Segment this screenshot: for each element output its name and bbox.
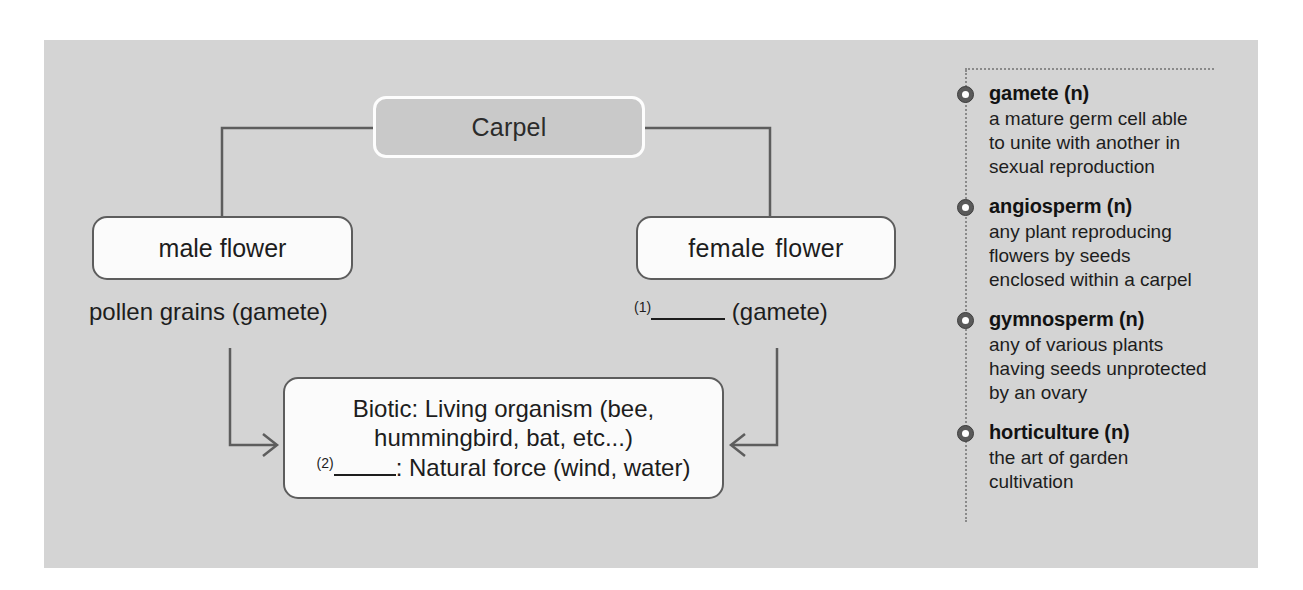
glossary-entry: horticulture (n) the art of garden culti… xyxy=(989,421,1239,494)
node-female-flower-label-part1: female xyxy=(688,234,765,262)
glossary-term: angiosperm (n) xyxy=(989,195,1239,217)
caption-female-gamete-suffix: (gamete) xyxy=(732,298,828,325)
connector-carpel-to-male xyxy=(222,128,373,216)
glossary-term: horticulture (n) xyxy=(989,421,1239,443)
node-male-flower[interactable]: male flower xyxy=(92,216,353,280)
connector-carpel-to-female xyxy=(645,128,770,216)
definition-line: to unite with another in xyxy=(989,131,1239,155)
glossary-entry: gamete (n) a mature germ cell able to un… xyxy=(989,82,1239,179)
glossary-definition: the art of garden cultivation xyxy=(989,446,1239,494)
answer-blank-1[interactable] xyxy=(651,318,725,320)
caption-female-gamete: (1) (gamete) xyxy=(634,298,828,326)
definition-line: flowers by seeds xyxy=(989,244,1239,268)
vector-line-1: Biotic: Living organism (bee, xyxy=(297,394,710,423)
answer-blank-2[interactable] xyxy=(334,474,396,476)
vector-line-3: (2): Natural force (wind, water) xyxy=(297,453,710,482)
node-female-flower-label-part2: flower xyxy=(765,234,844,262)
glossary-top-divider xyxy=(965,68,1214,70)
pollination-diagram: Carpel male flower femaleflower pollen g… xyxy=(44,40,964,568)
definition-line: any plant reproducing xyxy=(989,220,1239,244)
glossary-entry: gymnosperm (n) any of various plants hav… xyxy=(989,308,1239,405)
blank-number-1: (1) xyxy=(634,299,651,315)
definition-line: the art of garden xyxy=(989,446,1239,470)
node-female-flower[interactable]: femaleflower xyxy=(636,216,896,280)
worksheet-panel: Carpel male flower femaleflower pollen g… xyxy=(44,40,1258,568)
definition-line: by an ovary xyxy=(989,381,1239,405)
glossary-definition: any plant reproducing flowers by seeds e… xyxy=(989,220,1239,292)
glossary-panel: gamete (n) a mature germ cell able to un… xyxy=(921,40,1258,568)
node-pollination-vectors[interactable]: Biotic: Living organism (bee, hummingbir… xyxy=(283,377,724,499)
glossary-definition: a mature germ cell able to unite with an… xyxy=(989,107,1239,179)
definition-line: cultivation xyxy=(989,470,1239,494)
connector-female-to-vector xyxy=(732,348,777,445)
vector-line-3-suffix: : Natural force (wind, water) xyxy=(396,454,691,481)
caption-male-gamete: pollen grains (gamete) xyxy=(89,298,328,326)
glossary-definition: any of various plants having seeds unpro… xyxy=(989,333,1239,405)
blank-number-2: (2) xyxy=(317,455,334,471)
glossary-entry: angiosperm (n) any plant reproducing flo… xyxy=(989,195,1239,292)
definition-line: a mature germ cell able xyxy=(989,107,1239,131)
node-male-flower-label: male flower xyxy=(159,234,287,263)
glossary-term: gymnosperm (n) xyxy=(989,308,1239,330)
glossary-term: gamete (n) xyxy=(989,82,1239,104)
node-female-flower-label: femaleflower xyxy=(688,234,843,263)
node-carpel[interactable]: Carpel xyxy=(373,96,645,158)
connector-male-to-vector xyxy=(230,348,276,445)
definition-line: any of various plants xyxy=(989,333,1239,357)
glossary-vertical-divider xyxy=(965,70,967,522)
caption-male-gamete-text: pollen grains (gamete) xyxy=(89,298,328,325)
node-carpel-label: Carpel xyxy=(472,113,547,142)
definition-line: enclosed within a carpel xyxy=(989,268,1239,292)
definition-line: having seeds unprotected xyxy=(989,357,1239,381)
definition-line: sexual reproduction xyxy=(989,155,1239,179)
vector-line-2: hummingbird, bat, etc...) xyxy=(297,423,710,452)
